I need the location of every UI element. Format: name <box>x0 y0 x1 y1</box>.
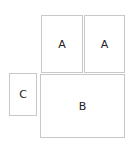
box-b: B <box>40 74 125 138</box>
box-c: C <box>9 73 37 116</box>
box-b-label: B <box>79 100 87 113</box>
box-a-right-label: A <box>101 38 109 51</box>
box-c-label: C <box>19 88 27 101</box>
box-a-left: A <box>41 15 83 73</box>
box-a-left-label: A <box>58 38 66 51</box>
box-a-right: A <box>84 15 125 73</box>
